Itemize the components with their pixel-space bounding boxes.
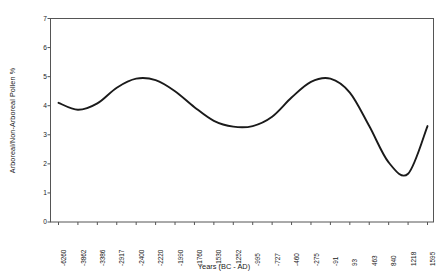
x-tick-label: -1990 [178, 226, 184, 266]
x-tick-label: -1530 [216, 226, 222, 266]
x-tick-label: -3862 [81, 226, 87, 266]
x-tick-label: -727 [275, 226, 281, 266]
x-tick-label: 1218 [411, 226, 417, 266]
x-tick-label: -1252 [236, 226, 242, 266]
x-tick-label: 463 [372, 226, 378, 266]
x-tick-label: 93 [352, 226, 358, 266]
x-axis-tick-labels: -6260-3862-3386-2917-2400-2220-1990-1760… [0, 0, 448, 280]
x-tick-label: -91 [333, 226, 339, 266]
x-tick-label: 1595 [430, 226, 436, 266]
pollen-line-chart: Arboreal/Non-Arboreal Pollen % 01234567 … [0, 0, 448, 280]
x-tick-label: -1760 [197, 226, 203, 266]
x-tick-label: -995 [255, 226, 261, 266]
x-tick-label: 840 [391, 226, 397, 266]
x-tick-label: -3386 [100, 226, 106, 266]
x-tick-label: -6260 [61, 226, 67, 266]
x-axis-title: Years (BC - AD) [0, 262, 448, 271]
x-tick-label: -460 [294, 226, 300, 266]
x-tick-label: -275 [314, 226, 320, 266]
x-tick-label: -2220 [158, 226, 164, 266]
x-tick-label: -2400 [139, 226, 145, 266]
x-tick-label: -2917 [119, 226, 125, 266]
